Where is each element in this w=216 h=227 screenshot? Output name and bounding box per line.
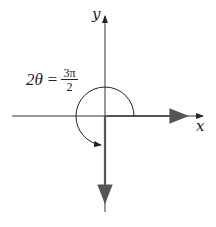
x-axis-label: x (196, 117, 204, 135)
angle-lhs: 2θ (26, 70, 43, 90)
fraction-denominator: 2 (66, 80, 72, 93)
y-axis-label: y (92, 5, 100, 23)
equals-sign: = (48, 70, 58, 90)
angle-label: 2θ = 3π 2 (26, 67, 78, 93)
angle-fraction: 3π 2 (61, 67, 77, 93)
fraction-numerator: 3π (61, 67, 77, 80)
coordinate-diagram (0, 0, 216, 227)
